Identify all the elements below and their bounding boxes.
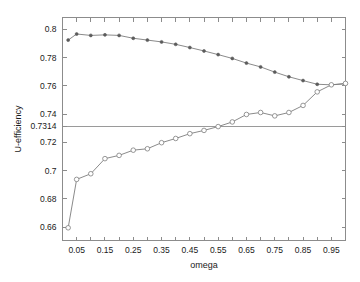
data-point [159, 140, 164, 145]
x-tick-label: 0.05 [68, 245, 85, 255]
data-point [316, 83, 319, 86]
data-point [103, 33, 106, 36]
data-point [146, 39, 149, 42]
data-point [145, 146, 150, 151]
y-tick-label: 0.74 [40, 109, 57, 119]
data-point [245, 62, 248, 65]
data-point [315, 90, 320, 95]
data-point [103, 156, 108, 161]
u-efficiency-vs-omega-chart: 0.050.150.250.350.450.550.650.750.850.95… [0, 0, 360, 282]
x-tick-label: 0.95 [323, 245, 340, 255]
y-tick-label: 0.68 [40, 194, 57, 204]
data-point [174, 43, 177, 46]
x-axis-ticks [77, 18, 346, 241]
data-point [67, 39, 70, 42]
data-point [272, 114, 277, 119]
data-point [188, 131, 193, 136]
data-point [203, 49, 206, 52]
x-tick-label: 0.25 [125, 245, 142, 255]
data-point [117, 153, 122, 158]
y-tick-label: 0.76 [40, 81, 57, 91]
y-tick-label: 0.72 [40, 137, 57, 147]
data-point [173, 136, 178, 141]
data-point [132, 37, 135, 40]
data-point [89, 34, 92, 37]
y-axis-tick-labels: 0.660.680.70.720.73140.740.760.780.8 [31, 24, 57, 232]
data-point [244, 112, 249, 117]
data-point [273, 71, 276, 74]
x-tick-label: 0.15 [97, 245, 114, 255]
data-point [302, 79, 305, 82]
x-axis-tick-labels: 0.050.150.250.350.450.550.650.750.850.95 [68, 245, 340, 255]
data-point [118, 34, 121, 37]
series-line [68, 34, 345, 85]
data-point [329, 83, 334, 88]
x-axis-title: omega [190, 260, 218, 270]
data-point [202, 128, 207, 133]
y-tick-label: 0.78 [40, 53, 57, 63]
data-point [89, 171, 94, 176]
y-tick-label: 0.7314 [31, 121, 57, 131]
chart-figure: 0.050.150.250.350.450.550.650.750.850.95… [0, 0, 360, 282]
data-point [231, 57, 234, 60]
data-point [287, 110, 292, 115]
data-series-group [66, 33, 348, 231]
data-point [75, 33, 78, 36]
data-point [287, 75, 290, 78]
y-tick-label: 0.7 [45, 166, 57, 176]
data-point [160, 40, 163, 43]
x-tick-label: 0.65 [238, 245, 255, 255]
data-point [259, 65, 262, 68]
data-point [230, 120, 235, 125]
data-point [258, 110, 263, 115]
data-point [66, 226, 71, 231]
data-point [74, 177, 79, 182]
x-tick-label: 0.45 [182, 245, 199, 255]
data-point [188, 46, 191, 49]
data-point [216, 124, 221, 129]
data-point [301, 103, 306, 108]
data-point [217, 53, 220, 56]
x-tick-label: 0.35 [153, 245, 170, 255]
y-axis-title: U-efficiency [13, 105, 23, 152]
x-tick-label: 0.55 [210, 245, 227, 255]
x-tick-label: 0.85 [295, 245, 312, 255]
data-point [131, 148, 136, 153]
x-tick-label: 0.75 [266, 245, 283, 255]
y-tick-label: 0.8 [45, 24, 57, 34]
series-lower-curve [66, 81, 348, 230]
series-upper-curve [67, 33, 347, 87]
data-point [343, 81, 348, 86]
y-tick-label: 0.66 [40, 222, 57, 232]
